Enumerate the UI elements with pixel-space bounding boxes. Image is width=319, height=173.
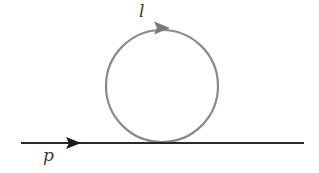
loop-arrow-icon bbox=[154, 22, 170, 35]
loop-propagator bbox=[106, 30, 218, 142]
loop-momentum-label: l bbox=[139, 3, 144, 20]
external-momentum-label: p bbox=[43, 147, 54, 164]
